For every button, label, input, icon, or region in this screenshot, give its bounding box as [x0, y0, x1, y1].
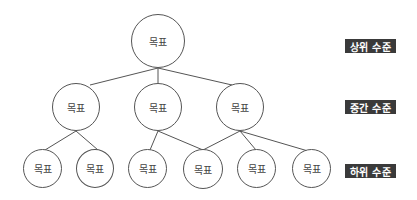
level-label-text: 하위 수준: [350, 164, 392, 179]
goal-node-mid-2: 목표: [134, 83, 182, 131]
level-label-middle: 중간 수준: [345, 100, 396, 114]
node-label: 목표: [248, 161, 266, 176]
goal-node-low-5: 목표: [237, 149, 276, 188]
node-label: 목표: [86, 161, 104, 176]
node-label: 목표: [303, 161, 321, 176]
edge-mid0-low1: [76, 131, 98, 150]
node-label: 목표: [139, 161, 157, 176]
goal-node-low-3: 목표: [128, 149, 167, 188]
edge-mid2-low3: [203, 131, 240, 150]
node-label: 목표: [34, 161, 52, 176]
edge-top-mid2: [158, 68, 232, 85]
node-label: 목표: [149, 100, 167, 115]
goal-node-top: 목표: [131, 14, 185, 68]
level-label-upper: 상위 수준: [345, 39, 396, 53]
node-label: 목표: [231, 100, 249, 115]
goal-node-low-1: 목표: [23, 149, 62, 188]
node-label: 목표: [149, 34, 167, 49]
goal-node-mid-1: 목표: [52, 83, 100, 131]
edge-mid2-low5: [240, 131, 308, 151]
level-label-text: 중간 수준: [350, 100, 392, 115]
edge-mid1-low2: [150, 131, 158, 150]
goal-node-mid-3: 목표: [216, 83, 264, 131]
node-label: 목표: [194, 162, 212, 177]
level-label-lower: 하위 수준: [345, 164, 396, 178]
goal-node-low-4: 목표: [183, 149, 223, 189]
edge-mid1-low3: [158, 131, 203, 150]
edge-top-mid0: [90, 68, 158, 85]
node-label: 목표: [67, 100, 85, 115]
edge-mid0-low0: [45, 131, 76, 150]
goal-node-low-6: 목표: [292, 149, 331, 188]
goal-node-low-2: 목표: [76, 149, 114, 188]
level-label-text: 상위 수준: [350, 39, 392, 54]
